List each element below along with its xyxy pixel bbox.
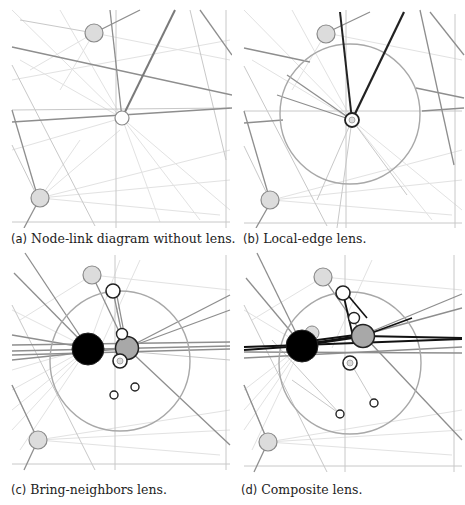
node-link-diagram-a [0, 0, 232, 228]
node-gray-bottom [29, 431, 47, 449]
caption-a-label: (a) [11, 232, 27, 246]
neighbor-node-2 [117, 329, 128, 340]
neighbor-node-4 [131, 383, 139, 391]
node-gray-top [317, 25, 335, 43]
node-focus-inner [349, 117, 355, 123]
neighbor-node-5 [336, 410, 344, 418]
node-gray-top [85, 24, 103, 42]
node-link-diagram-b [232, 0, 465, 228]
neighbor-node-3-inner [347, 360, 353, 366]
caption-b-label: (b) [243, 232, 259, 246]
caption-c-label: (c) [11, 483, 26, 497]
caption-d-text: Composite lens. [261, 482, 362, 497]
node-focus [115, 111, 129, 125]
caption-c-text: Bring-neighbors lens. [30, 482, 167, 497]
neighbor-node-5 [110, 391, 118, 399]
focus-node-black [286, 330, 318, 362]
node-link-diagram-d [232, 250, 465, 475]
panel-a-node-link-no-lens: (a) Node-link diagram without lens. [0, 0, 232, 250]
focus-node-black [72, 333, 104, 365]
caption-c: (c) Bring-neighbors lens. [11, 482, 167, 497]
caption-b: (b) Local-edge lens. [243, 231, 366, 246]
caption-d: (d) Composite lens. [241, 482, 362, 497]
node-link-diagram-c [0, 250, 232, 475]
neighbor-node-gray [352, 325, 375, 348]
neighbor-node-2 [349, 313, 360, 324]
panel-b-local-edge-lens: (b) Local-edge lens. [232, 0, 464, 250]
caption-b-text: Local-edge lens. [263, 231, 366, 246]
neighbor-node-1 [106, 284, 120, 298]
neighbor-node-4 [370, 399, 378, 407]
caption-a-text: Node-link diagram without lens. [31, 231, 236, 246]
panel-c-bring-neighbors-lens: (c) Bring-neighbors lens. [0, 250, 232, 505]
node-gray-bottom [31, 189, 49, 207]
node-gray-bottom [259, 433, 277, 451]
node-gray-bottom [261, 191, 279, 209]
panel-d-composite-lens: (d) Composite lens. [232, 250, 464, 505]
neighbor-node-1 [336, 286, 350, 300]
caption-d-label: (d) [241, 483, 257, 497]
caption-a: (a) Node-link diagram without lens. [11, 231, 236, 246]
neighbor-node-3-inner [117, 358, 123, 364]
node-gray-top [314, 268, 332, 286]
node-gray-top [83, 266, 101, 284]
